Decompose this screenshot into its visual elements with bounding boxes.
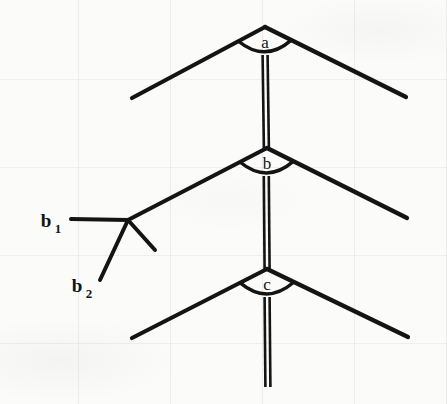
double-line-stroke-right — [268, 55, 269, 149]
arm-c-left — [132, 269, 267, 338]
double-line-stroke-left — [264, 176, 265, 270]
arm-b-right — [267, 148, 407, 218]
double-line-stroke-right — [269, 176, 270, 270]
arm-b-left — [128, 148, 267, 220]
arm-a-right — [265, 27, 406, 97]
arm-a-left — [132, 27, 265, 98]
leader-label-b1-base: b — [41, 210, 52, 231]
leader-label-b2-subscript: 2 — [86, 286, 93, 301]
double-line-stroke-left — [265, 297, 266, 387]
leader-group-b2: b 2 — [72, 220, 128, 301]
figure-page: a b c — [0, 0, 447, 404]
angle-group-b: b — [128, 148, 407, 220]
double-line-stroke-left — [263, 55, 264, 149]
vertex-label-c: c — [263, 275, 271, 294]
leader-line-b2 — [100, 220, 128, 280]
double-line-stroke-right — [270, 297, 271, 387]
double-line-segment-a-b — [263, 55, 269, 149]
double-line-segment-c-tail — [265, 297, 271, 387]
arm-c-right — [267, 269, 408, 337]
double-line-segment-b-c — [264, 176, 270, 270]
leader-group-b1: b 1 — [41, 210, 128, 236]
vertex-label-b: b — [263, 154, 272, 173]
angle-diagram-svg: a b c — [0, 0, 447, 404]
vertex-label-a: a — [261, 33, 269, 52]
leader-line-b1 — [71, 219, 128, 220]
leader-label-b1-subscript: 1 — [55, 221, 62, 236]
leader-label-b2-base: b — [72, 275, 83, 296]
branch-stub-line — [128, 220, 155, 250]
